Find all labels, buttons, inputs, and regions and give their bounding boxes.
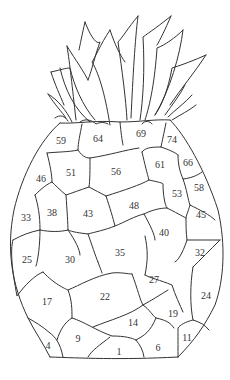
region-number: 14 [128,317,138,328]
region-number: 61 [155,159,165,170]
region-number: 46 [36,173,46,184]
region-number: 4 [46,340,51,351]
region-number: 24 [201,290,211,301]
region-number: 30 [65,254,75,265]
pineapple-crown [48,16,206,125]
region-number: 69 [136,128,146,139]
region-number: 32 [195,247,205,258]
region-number: 48 [129,200,139,211]
region-number: 6 [156,342,161,353]
region-number: 25 [22,254,32,265]
region-number: 51 [66,167,76,178]
region-number: 53 [172,188,182,199]
pineapple-body [10,120,223,359]
region-number: 17 [42,296,52,307]
pineapple-illustration: 59 64 69 74 46 51 56 61 66 53 58 33 38 4… [0,0,230,380]
region-number: 27 [149,274,159,285]
region-number: 56 [111,166,121,177]
region-number: 45 [196,209,206,220]
region-number: 9 [76,333,81,344]
region-number: 38 [47,207,57,218]
region-number: 74 [167,134,177,145]
region-number: 33 [21,212,31,223]
region-number: 59 [56,135,66,146]
region-number: 64 [93,133,103,144]
region-number: 22 [100,291,110,302]
region-number: 43 [83,208,93,219]
region-number: 19 [168,308,178,319]
region-number: 11 [182,332,192,343]
region-number: 66 [183,157,193,168]
region-number: 35 [115,247,125,258]
region-number: 58 [194,182,204,193]
region-number: 40 [159,227,169,238]
region-number: 1 [117,346,122,357]
